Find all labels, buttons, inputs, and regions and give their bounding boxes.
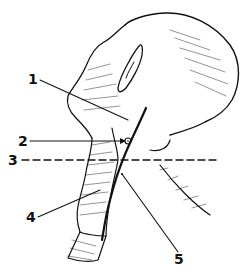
leader-1 bbox=[40, 80, 128, 120]
label-1: 1 bbox=[28, 72, 38, 86]
label-2: 2 bbox=[18, 134, 28, 148]
label-3: 3 bbox=[8, 153, 18, 167]
incision-line bbox=[102, 108, 146, 240]
face-outline bbox=[67, 25, 125, 138]
shoulder bbox=[150, 140, 210, 215]
hatching bbox=[68, 30, 228, 260]
leader-5 bbox=[122, 174, 178, 252]
label-4: 4 bbox=[26, 210, 36, 224]
anatomical-illustration bbox=[0, 0, 248, 272]
label-5: 5 bbox=[174, 252, 184, 266]
